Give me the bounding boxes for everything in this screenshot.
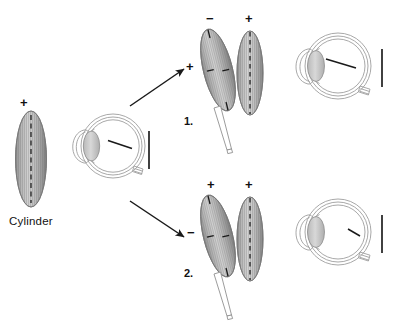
source-caption: Cylinder [9,215,53,227]
panel-2-upright-lens [232,194,268,284]
panel-1-upright-lens-top-sign: + [245,12,253,25]
panel-2-upright-lens-top-sign: + [245,178,253,191]
panel-1-focal-line [326,59,356,68]
panel-2-retina-bar [376,212,388,256]
figure-canvas: + Cylinder [0,0,394,335]
panel-2-lens-handle [214,272,233,320]
panel-2-eye-diagram [286,192,386,272]
source-focal-line [108,141,132,149]
panel-1-upright-lens [232,28,268,118]
source-eye-crystalline-lens [83,131,99,161]
panel-1-eye-diagram [286,26,386,106]
arrow-to-panel-2 [126,196,196,244]
source-retina-bar [143,128,155,172]
panel-1-lens-handle [214,106,233,154]
source-cylinder-lens [8,108,54,210]
panel-1-retina-bar [376,46,388,90]
panel-2-focal-line [348,229,360,236]
